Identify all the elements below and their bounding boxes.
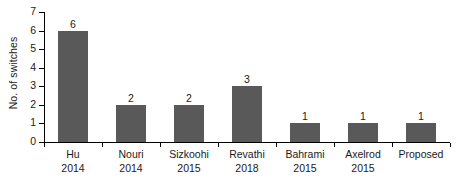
category-name: Hu xyxy=(66,148,79,160)
bar-value-label: 1 xyxy=(302,110,308,122)
category-name: Bahrami xyxy=(285,148,324,160)
category-name: Sizkoohi xyxy=(169,148,209,160)
bar-value-label: 6 xyxy=(70,18,76,30)
category-name: Revathi xyxy=(229,148,265,160)
y-axis-tick-label: 5 xyxy=(30,42,36,55)
bar: 1 xyxy=(406,109,436,142)
bar: 2 xyxy=(116,91,146,142)
x-axis-category-label: Proposed xyxy=(392,147,450,161)
y-axis-tick-label: 4 xyxy=(30,61,36,74)
category-name: Proposed xyxy=(399,148,444,160)
y-axis-tick: 7 xyxy=(39,12,44,13)
bar: 3 xyxy=(232,72,262,142)
y-axis-line xyxy=(44,12,45,143)
bar-rect xyxy=(290,123,320,142)
y-axis-tick-label: 6 xyxy=(30,24,36,37)
bar: 1 xyxy=(348,109,378,142)
y-axis-tick-label: 2 xyxy=(30,98,36,111)
bar-rect xyxy=(406,123,436,142)
bar-value-label: 3 xyxy=(244,73,250,85)
category-year: 2018 xyxy=(218,161,276,175)
y-axis-tick-label: 0 xyxy=(30,135,36,148)
x-axis-category-label: Revathi2018 xyxy=(218,147,276,175)
bar-chart-figure: No. of switches 01234567 6223111 Hu2014N… xyxy=(0,0,459,186)
bar-value-label: 1 xyxy=(418,110,424,122)
y-axis-title-text: No. of switches xyxy=(7,36,19,109)
category-name: Axelrod xyxy=(345,148,381,160)
y-axis-tick-label: 1 xyxy=(30,116,36,129)
bar: 2 xyxy=(174,91,204,142)
bar-value-label: 1 xyxy=(360,110,366,122)
category-year: 2014 xyxy=(102,161,160,175)
bar-value-label: 2 xyxy=(186,92,192,104)
bar: 6 xyxy=(58,17,88,142)
x-axis-category-label: Sizkoohi2015 xyxy=(160,147,218,175)
y-axis-tick: 2 xyxy=(39,105,44,106)
x-axis-tick xyxy=(450,143,451,147)
y-axis-tick: 5 xyxy=(39,49,44,50)
bar-rect xyxy=(58,31,88,142)
y-axis-tick: 3 xyxy=(39,86,44,87)
x-axis-category-label: Nouri2014 xyxy=(102,147,160,175)
y-axis-tick: 1 xyxy=(39,123,44,124)
category-year: 2015 xyxy=(334,161,392,175)
bar: 1 xyxy=(290,109,320,142)
category-year: 2015 xyxy=(276,161,334,175)
bar-rect xyxy=(348,123,378,142)
category-year: 2014 xyxy=(44,161,102,175)
x-axis-category-label: Axelrod2015 xyxy=(334,147,392,175)
bar-rect xyxy=(116,105,146,142)
category-year: 2015 xyxy=(160,161,218,175)
category-name: Nouri xyxy=(118,148,143,160)
x-axis-category-label: Bahrami2015 xyxy=(276,147,334,175)
bar-rect xyxy=(174,105,204,142)
y-axis-tick-label: 7 xyxy=(30,5,36,18)
bar-value-label: 2 xyxy=(128,92,134,104)
y-axis-tick: 6 xyxy=(39,31,44,32)
y-axis-tick: 4 xyxy=(39,68,44,69)
y-axis-tick-label: 3 xyxy=(30,79,36,92)
y-axis-title: No. of switches xyxy=(2,0,24,145)
bar-rect xyxy=(232,86,262,142)
x-axis-category-label: Hu2014 xyxy=(44,147,102,175)
x-axis-line xyxy=(44,142,450,143)
plot-area: 01234567 6223111 xyxy=(44,12,450,143)
